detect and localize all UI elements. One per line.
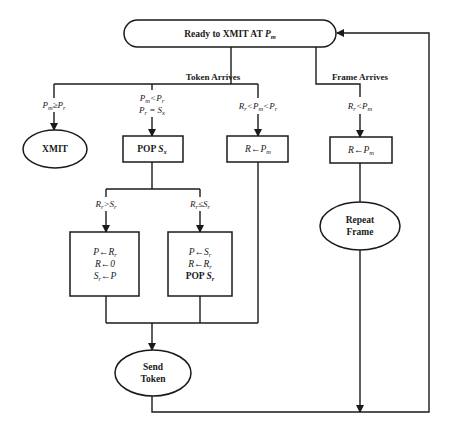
pop-sx-label: POP Sx	[137, 144, 167, 155]
r-assign-pm-node-token: R←Pm	[227, 136, 288, 162]
left-box-line-1: P←Rr	[92, 247, 117, 258]
mid-box-line-3: POP Sr	[186, 271, 215, 282]
r-assign-pm-node-frame: R←Pm	[330, 137, 392, 163]
send-token-line-2: Token	[141, 374, 167, 384]
flowchart: Ready to XMIT AT Pm Token Arrives Frame …	[0, 0, 450, 427]
send-token-line-1: Send	[143, 362, 164, 372]
pop-sx-node: POP Sx	[123, 136, 183, 162]
mid-box-line-2: R←Rr	[187, 259, 212, 270]
start-node: Ready to XMIT AT Pm	[124, 20, 336, 47]
token-arrives-label: Token Arrives	[186, 72, 241, 82]
left-assignment-node: P←Rr R←0 Sr←P	[70, 232, 139, 296]
condition-pm-lt-pr: Pm<Pr	[139, 93, 165, 104]
frame-arrives-label: Frame Arrives	[332, 72, 389, 82]
repeat-frame-node: Repeat Frame	[320, 202, 400, 250]
repeat-frame-line-2: Frame	[347, 227, 374, 237]
condition-rr-gt-sr: Rr>Sr	[94, 199, 117, 210]
condition-rr-lt-pm: Rr<Pm	[347, 101, 373, 112]
mid-box-line-1: P←Sr	[188, 247, 212, 258]
condition-rr-le-sr: Rr≤Sr	[189, 199, 210, 210]
condition-rr-lt-pm-lt-pr: Rr<Pm<Pr	[238, 101, 278, 112]
xmit-node: XMIT	[23, 130, 87, 168]
repeat-frame-line-1: Repeat	[346, 215, 375, 225]
send-token-node: Send Token	[115, 350, 191, 396]
xmit-label: XMIT	[42, 144, 69, 154]
condition-pr-eq-sx: Pr = Sx	[138, 105, 165, 116]
mid-assignment-node: P←Sr R←Rr POP Sr	[168, 232, 232, 296]
left-box-line-2: R←0	[94, 259, 115, 269]
condition-pm-ge-pr: Pm≥Pr	[41, 100, 66, 111]
start-node-label: Ready to XMIT AT Pm	[184, 29, 276, 40]
left-box-line-3: Sr←P	[94, 271, 117, 282]
